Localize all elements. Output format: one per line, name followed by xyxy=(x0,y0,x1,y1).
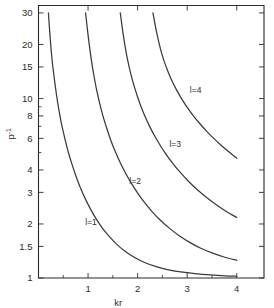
y-tick-label-15: 15 xyxy=(22,61,33,72)
curve-label-l4: l=4 xyxy=(190,85,202,95)
curve-label-l1: l=1 xyxy=(85,217,97,227)
y-tick-label-4: 4 xyxy=(27,164,32,175)
plot-border xyxy=(39,6,265,279)
curve-l3 xyxy=(120,13,236,218)
y-tick-label-6: 6 xyxy=(27,133,32,144)
y-tick-label-3: 3 xyxy=(27,187,32,198)
y-tick-label-1: 1 xyxy=(27,272,32,283)
x-axis-tick-labels: 1234 xyxy=(85,283,239,294)
x-axis-title: kr xyxy=(114,297,122,308)
curve-label-l3: l=3 xyxy=(169,139,181,149)
y-tick-label-1.5: 1.5 xyxy=(19,241,32,252)
y-axis-tick-labels: 11.52346810152030 xyxy=(19,7,32,283)
curve-label-l2: l=2 xyxy=(129,176,141,186)
x-tick-label-1: 1 xyxy=(85,283,90,294)
y-axis-title-exponent: -1 xyxy=(5,128,12,134)
y-tick-label-30: 30 xyxy=(22,7,33,18)
x-tick-label-3: 3 xyxy=(185,283,190,294)
y-axis-title: p-1 xyxy=(5,128,16,140)
x-tick-label-4: 4 xyxy=(234,283,239,294)
axis-titles: krp-1 xyxy=(5,128,122,308)
chart-root: 1234 11.52346810152030 l=1l=2l=3l=4 krp-… xyxy=(0,0,274,308)
plot-frame xyxy=(39,6,265,279)
chart-figure: 1234 11.52346810152030 l=1l=2l=3l=4 krp-… xyxy=(0,0,274,308)
y-axis-ticks xyxy=(39,13,265,278)
data-curves xyxy=(48,13,236,276)
y-tick-label-2: 2 xyxy=(27,218,32,229)
curve-l1 xyxy=(48,13,236,276)
curve-labels: l=1l=2l=3l=4 xyxy=(85,85,201,227)
y-tick-label-20: 20 xyxy=(22,39,33,50)
x-tick-label-2: 2 xyxy=(135,283,140,294)
y-tick-label-8: 8 xyxy=(27,110,32,121)
y-tick-label-10: 10 xyxy=(22,93,33,104)
